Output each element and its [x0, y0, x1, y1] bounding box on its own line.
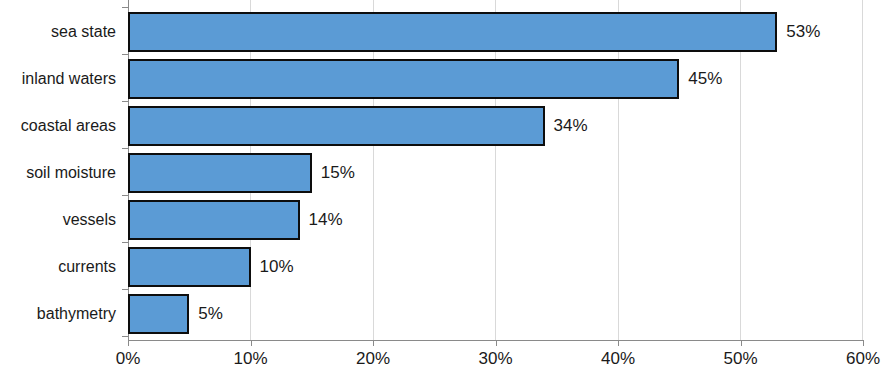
- bar: [128, 294, 189, 334]
- y-axis-tick: [122, 289, 128, 290]
- bar-chart: sea state53%inland waters45%coastal area…: [0, 0, 885, 375]
- category-label: sea state: [0, 12, 116, 52]
- x-axis-tick-label: 30%: [456, 349, 536, 369]
- category-label: coastal areas: [0, 106, 116, 146]
- bar-row: vessels14%: [0, 200, 885, 240]
- bar-row: sea state53%: [0, 12, 885, 52]
- bar: [128, 12, 777, 52]
- x-axis-tick: [618, 340, 619, 346]
- bar-row: coastal areas34%: [0, 106, 885, 146]
- x-axis-tick: [128, 340, 129, 346]
- y-axis-tick: [122, 195, 128, 196]
- category-label: currents: [0, 247, 116, 287]
- y-axis-tick: [122, 101, 128, 102]
- x-axis-tick-label: 10%: [211, 349, 291, 369]
- bar: [128, 153, 312, 193]
- bar: [128, 200, 300, 240]
- x-axis-tick-label: 20%: [333, 349, 413, 369]
- y-axis-tick: [122, 7, 128, 8]
- bar: [128, 106, 545, 146]
- category-label: vessels: [0, 200, 116, 240]
- x-axis-tick: [741, 340, 742, 346]
- x-axis-tick: [373, 340, 374, 346]
- bar: [128, 59, 679, 99]
- category-label: inland waters: [0, 59, 116, 99]
- y-axis-tick: [122, 242, 128, 243]
- x-axis-tick-label: 50%: [701, 349, 781, 369]
- x-axis-tick: [251, 340, 252, 346]
- bar-value-label: 14%: [309, 200, 343, 240]
- y-axis-tick: [122, 54, 128, 55]
- bar-value-label: 5%: [198, 294, 223, 334]
- bar-row: bathymetry5%: [0, 294, 885, 334]
- x-axis-tick: [863, 340, 864, 346]
- x-axis-tick-label: 0%: [88, 349, 168, 369]
- category-label: soil moisture: [0, 153, 116, 193]
- category-label: bathymetry: [0, 294, 116, 334]
- y-axis-tick: [122, 148, 128, 149]
- y-axis-tick: [122, 336, 128, 337]
- bar-value-label: 53%: [786, 12, 820, 52]
- bar-row: inland waters45%: [0, 59, 885, 99]
- x-axis-tick-label: 40%: [578, 349, 658, 369]
- bar-value-label: 34%: [554, 106, 588, 146]
- bar-row: soil moisture15%: [0, 153, 885, 193]
- bar-value-label: 10%: [260, 247, 294, 287]
- bar: [128, 247, 251, 287]
- bar-value-label: 45%: [688, 59, 722, 99]
- bar-row: currents10%: [0, 247, 885, 287]
- bar-value-label: 15%: [321, 153, 355, 193]
- x-axis-tick-label: 60%: [823, 349, 885, 369]
- x-axis-tick: [496, 340, 497, 346]
